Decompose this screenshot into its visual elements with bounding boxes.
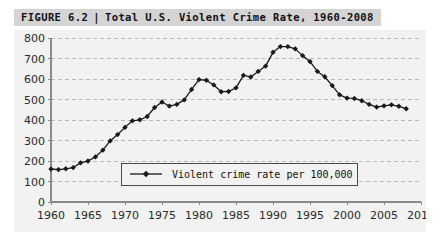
x-tick-label: 1970 [111,209,139,222]
x-tick-label: 1975 [148,209,176,222]
y-tick-label: 200 [24,155,45,168]
x-tick-label: 1980 [185,209,213,222]
y-tick-label: 700 [24,53,45,66]
chart-legend: Violent crime rate per 100,000 [121,163,357,185]
y-tick-label: 0 [38,196,45,209]
figure-container: FIGURE 6.2 | Total U.S. Violent Crime Ra… [0,0,440,242]
y-tick-label: 100 [24,176,45,189]
x-tick-label: 1985 [222,209,250,222]
y-axis-tick-labels: 0100200300400500600700800 [24,32,45,209]
figure-title-label: Total U.S. Violent Crime Rate, 1960-2008 [105,9,374,26]
gridlines-group [51,38,421,182]
x-tick-label: 1995 [296,209,324,222]
figure-header-separator: | [88,9,105,26]
figure-number-label: FIGURE 6.2 [21,9,88,26]
y-tick-label: 600 [24,73,45,86]
x-tick-label: 2005 [370,209,398,222]
x-tick-label: 2010 [407,209,426,222]
figure-header-band: FIGURE 6.2 | Total U.S. Violent Crime Ra… [14,9,381,26]
series-group [49,45,408,172]
y-tick-label: 500 [24,94,45,107]
line-chart: 0100200300400500600700800 19601965197019… [14,30,426,232]
legend-entry-label: Violent crime rate per 100,000 [172,169,353,180]
y-tick-label: 300 [24,135,45,148]
y-tick-label: 400 [24,114,45,127]
y-tick-label: 800 [24,32,45,45]
x-tick-label: 1965 [74,209,102,222]
x-tick-label: 1990 [259,209,287,222]
x-tick-label: 1960 [37,209,65,222]
x-axis-tick-labels: 1960196519701975198019851990199520002005… [37,209,426,222]
chart-area: 0100200300400500600700800 19601965197019… [14,30,426,232]
x-tick-label: 2000 [333,209,361,222]
